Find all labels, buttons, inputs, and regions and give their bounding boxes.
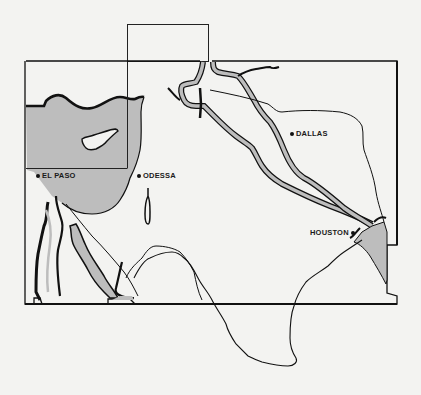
river-northeast-squiggle xyxy=(238,67,279,76)
odessa-lake xyxy=(145,188,150,224)
city-dallas: DALLAS xyxy=(290,129,328,138)
city-dot-icon xyxy=(137,174,141,178)
vertical-inlet xyxy=(200,88,201,118)
river-band-east xyxy=(213,62,372,226)
city-dot-icon xyxy=(36,174,40,178)
houston-shaded-area xyxy=(354,222,387,284)
city-el-paso: EL PASO xyxy=(36,171,76,180)
city-odessa: ODESSA xyxy=(137,171,176,180)
bottom-hill-outline xyxy=(126,246,202,300)
river-pecos-shaded xyxy=(70,224,118,298)
city-houston: HOUSTON xyxy=(310,228,355,237)
city-dot-icon xyxy=(290,132,294,136)
map-container: EL PASO ODESSA DALLAS HOUSTON xyxy=(0,0,421,395)
city-dot-icon xyxy=(351,231,355,235)
northern-boundary-line xyxy=(210,90,384,222)
shaded-west-region xyxy=(26,95,144,214)
texas-region-map xyxy=(0,0,421,395)
upper-frame-box xyxy=(128,25,209,62)
river-rio-grande-2 xyxy=(56,196,63,296)
river-small-fork xyxy=(116,262,134,298)
river-band-west xyxy=(181,62,372,224)
